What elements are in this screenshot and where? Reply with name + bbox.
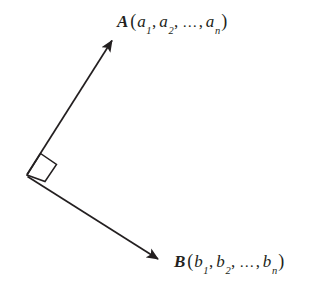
vector-b-separator-3: , <box>256 252 263 271</box>
vector-b-component-2: b <box>216 252 225 271</box>
vector-a-component-2: a <box>159 12 168 31</box>
vector-b-subscript-2: 2 <box>225 265 231 276</box>
vector-b-label: B(b1,b2,…,bn) <box>174 252 285 270</box>
vector-a-separator-3: , <box>199 12 206 31</box>
vector-diagram-figure: A(a1,a2,…,an) B(b1,b2,…,bn) <box>0 0 327 299</box>
vector-b-component-1: b <box>194 252 203 271</box>
vector-a-subscript-2: 2 <box>168 25 174 36</box>
vector-b-name: B <box>174 252 187 271</box>
vector-a-close-paren: ) <box>221 11 228 31</box>
right-angle-marker-icon <box>27 154 57 182</box>
vector-a-subscript-n: n <box>215 25 221 36</box>
vector-a-ellipsis: … <box>181 14 199 30</box>
vector-a-name: A <box>117 12 130 31</box>
vector-b-arrow <box>28 177 159 260</box>
vector-a-subscript-1: 1 <box>146 25 152 36</box>
vector-b-close-paren: ) <box>278 251 285 271</box>
vector-b-subscript-1: 1 <box>203 265 209 276</box>
vector-b-subscript-n: n <box>272 265 278 276</box>
vector-b-ellipsis: … <box>238 254 256 270</box>
vector-a-label: A(a1,a2,…,an) <box>117 12 228 30</box>
vector-b-component-n: b <box>263 252 272 271</box>
vector-a-component-1: a <box>137 12 146 31</box>
vector-a-component-n: a <box>206 12 215 31</box>
